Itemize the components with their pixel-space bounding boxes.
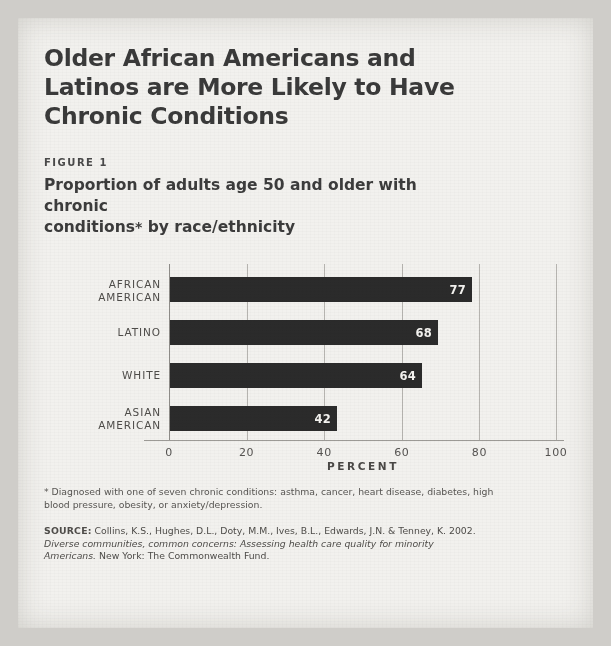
category-label-line: ASIAN — [125, 406, 161, 418]
figure-subtitle-line2: conditions — [44, 218, 135, 236]
x-tick-20: 20 — [227, 446, 267, 459]
source-label: SOURCE: — [44, 525, 92, 536]
category-label-latino: LATINO — [46, 326, 161, 339]
x-tick-0: 0 — [149, 446, 189, 459]
category-label-white: WHITE — [46, 369, 161, 382]
category-label-line: LATINO — [118, 326, 162, 338]
x-axis-baseline — [144, 440, 564, 441]
bar-white: 64 — [170, 363, 422, 388]
scanned-page: Older African Americans and Latinos are … — [18, 18, 593, 628]
source-publisher: New York: The Commonwealth Fund. — [96, 550, 269, 561]
bar-african-american: 77 — [170, 277, 472, 302]
x-tick-80: 80 — [459, 446, 499, 459]
bar-asian-american: 42 — [170, 406, 337, 431]
x-tick-60: 60 — [382, 446, 422, 459]
bar-latino: 68 — [170, 320, 438, 345]
category-label-asian-american: ASIAN AMERICAN — [46, 406, 161, 431]
figure-subtitle: Proportion of adults age 50 and older wi… — [44, 175, 444, 238]
x-tick-40: 40 — [304, 446, 344, 459]
figure-footnote: * Diagnosed with one of seven chronic co… — [44, 486, 518, 511]
figure-source: SOURCE: Collins, K.S., Hughes, D.L., Dot… — [44, 525, 484, 563]
source-authors: Collins, K.S., Hughes, D.L., Doty, M.M.,… — [92, 525, 476, 536]
category-label-line: AMERICAN — [98, 291, 161, 303]
x-tick-100: 100 — [536, 446, 576, 459]
bar-value-african-american: 77 — [449, 283, 466, 297]
category-label-line: AMERICAN — [98, 419, 161, 431]
bar-chart: AFRICAN AMERICAN 77 LATINO 68 WHITE 64 — [44, 260, 564, 472]
figure-label: FIGURE 1 — [44, 157, 564, 168]
category-label-line: AFRICAN — [109, 278, 161, 290]
figure-content: Older African Americans and Latinos are … — [44, 44, 564, 563]
bar-value-latino: 68 — [415, 326, 432, 340]
gridline-80 — [479, 264, 480, 440]
gridline-100 — [556, 264, 557, 440]
page-title: Older African Americans and Latinos are … — [44, 44, 514, 131]
figure-subtitle-line1: Proportion of adults age 50 and older wi… — [44, 176, 417, 215]
bar-value-asian-american: 42 — [314, 412, 331, 426]
figure-subtitle-line2-rest: by race/ethnicity — [142, 218, 295, 236]
category-label-line: WHITE — [122, 369, 161, 381]
x-axis-label: PERCENT — [169, 460, 557, 472]
bar-value-white: 64 — [399, 369, 416, 383]
category-label-african-american: AFRICAN AMERICAN — [46, 278, 161, 303]
